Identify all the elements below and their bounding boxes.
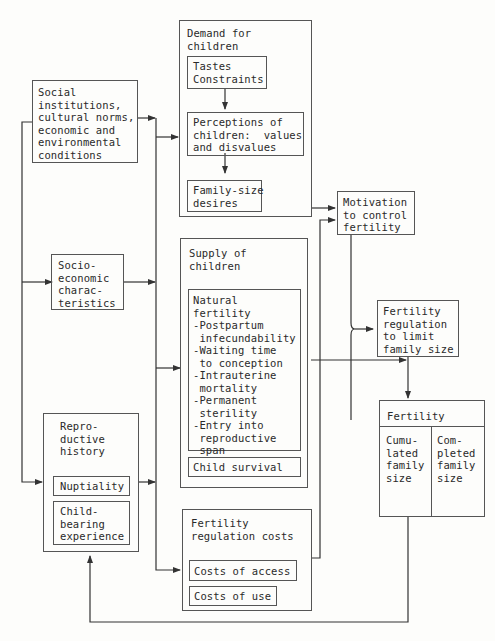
costs-of-access-label: Costs of access [194, 565, 290, 578]
reproductive-history-box: Repro- ductive history Nuptiality Child-… [43, 413, 139, 552]
tastes-constraints-label: Tastes Constraints [193, 60, 264, 85]
reproductive-history-label: Repro- ductive history [60, 420, 105, 458]
family-size-desires-label: Family-size desires [193, 184, 264, 209]
tastes-constraints-box: Tastes Constraints [187, 56, 267, 89]
supply-of-children-box: Supply of children Natural fertility -Po… [180, 238, 308, 488]
fertility-column-divider [431, 426, 432, 516]
cumulated-family-size-label: Cumu- lated family size [386, 434, 425, 484]
fertility-label: Fertility [387, 410, 445, 423]
motivation-label: Motivation to control fertility [343, 196, 407, 234]
childbearing-experience-box: Child- bearing experience [53, 501, 130, 545]
socioeconomic-box: Socio- economic charac- teristics [51, 254, 124, 310]
fertility-box: Fertility Cumu- lated family size Com- p… [379, 400, 485, 517]
socioeconomic-label: Socio- economic charac- teristics [58, 259, 116, 309]
social-institutions-box: Social institutions, cultural norms, eco… [32, 80, 138, 163]
costs-of-access-box: Costs of access [189, 560, 297, 581]
costs-of-use-box: Costs of use [189, 586, 277, 606]
supply-label: Supply of children [189, 247, 247, 272]
childbearing-experience-label: Child- bearing experience [60, 505, 124, 543]
natural-fertility-box: Natural fertility -Postpartum infecundab… [188, 289, 301, 451]
fertility-regulation-costs-box: Fertility regulation costs Costs of acce… [182, 509, 312, 611]
fertility-regulation-box: Fertility regulation to limit family siz… [377, 300, 459, 357]
nuptiality-label: Nuptiality [60, 480, 124, 493]
costs-of-use-label: Costs of use [194, 590, 271, 603]
child-survival-label: Child survival [193, 461, 283, 474]
nuptiality-box: Nuptiality [53, 476, 130, 496]
perceptions-box: Perceptions of children: values and disv… [187, 112, 304, 156]
regulation-costs-label: Fertility regulation costs [191, 517, 294, 542]
demand-for-children-box: Demand for children Tastes Constraints P… [179, 20, 312, 217]
social-institutions-label: Social institutions, cultural norms, eco… [38, 86, 134, 161]
natural-fertility-label: Natural fertility -Postpartum infecundab… [193, 294, 296, 457]
demand-label: Demand for children [187, 27, 251, 52]
family-size-desires-box: Family-size desires [187, 180, 262, 212]
perceptions-label: Perceptions of children: values and disv… [193, 116, 302, 154]
motivation-box: Motivation to control fertility [337, 191, 415, 235]
fertility-regulation-label: Fertility regulation to limit family siz… [383, 305, 454, 355]
completed-family-size-label: Com- pleted family size [437, 434, 476, 484]
fertility-header-divider [380, 426, 484, 427]
child-survival-box: Child survival [188, 457, 301, 477]
